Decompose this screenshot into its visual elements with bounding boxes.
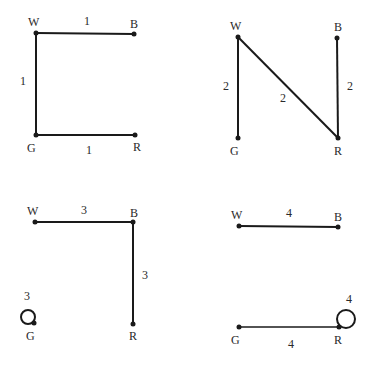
node-g <box>32 321 37 326</box>
node-g <box>34 133 39 138</box>
node-label-w: W <box>27 204 39 218</box>
node-r <box>336 136 341 141</box>
node-g <box>236 136 241 141</box>
node-label-g: G <box>27 141 36 155</box>
node-label-w: W <box>230 19 242 33</box>
edge-weight-b-r: 2 <box>347 79 353 93</box>
node-label-w: W <box>231 208 243 222</box>
graph-panel-3: W B G R 3 3 3 <box>21 203 148 343</box>
node-r <box>133 133 138 138</box>
node-label-b: B <box>334 210 342 224</box>
edge-weight-w-b: 1 <box>84 14 90 28</box>
edge-weight-g-loop: 3 <box>24 289 30 303</box>
edge-w-b <box>36 33 134 34</box>
node-label-b: B <box>130 206 138 220</box>
graph-panel-1: W B G R 1 1 1 <box>20 14 141 157</box>
edge-weight-b-r: 3 <box>142 268 148 282</box>
edge-weight-w-b: 3 <box>81 203 87 217</box>
edge-w-b <box>239 226 338 227</box>
edge-weight-r-loop: 4 <box>346 292 352 306</box>
edge-weight-g-r: 4 <box>288 337 294 351</box>
graph-panel-2: W B G R 2 2 2 <box>223 19 353 158</box>
node-w <box>237 224 242 229</box>
edge-weight-w-g: 2 <box>223 79 229 93</box>
edge-weight-w-g: 1 <box>20 74 26 88</box>
graph-diagram: W B G R 1 1 1 W B G R 2 2 2 W B G R 3 <box>0 0 377 365</box>
node-g <box>237 325 242 330</box>
node-label-b: B <box>130 17 138 31</box>
node-w <box>34 31 39 36</box>
node-w <box>236 35 241 40</box>
node-label-w: W <box>28 15 40 29</box>
edge-weight-w-b: 4 <box>286 206 292 220</box>
node-r <box>131 322 136 327</box>
edge-w-r <box>238 37 338 138</box>
edge-weight-g-r: 1 <box>86 143 92 157</box>
node-r <box>337 325 342 330</box>
edge-b-r <box>337 38 338 138</box>
node-label-g: G <box>230 144 239 158</box>
edge-weight-w-r: 2 <box>280 91 286 105</box>
node-label-g: G <box>231 333 240 347</box>
node-b <box>336 225 341 230</box>
node-label-r: R <box>129 329 137 343</box>
graph-panel-4: W B G R 4 4 4 <box>231 206 355 351</box>
node-w <box>33 220 38 225</box>
node-b <box>131 220 136 225</box>
node-label-b: B <box>334 20 342 34</box>
node-label-g: G <box>26 329 35 343</box>
node-b <box>335 36 340 41</box>
node-label-r: R <box>334 333 342 347</box>
node-b <box>132 32 137 37</box>
node-label-r: R <box>133 140 141 154</box>
node-label-r: R <box>334 144 342 158</box>
